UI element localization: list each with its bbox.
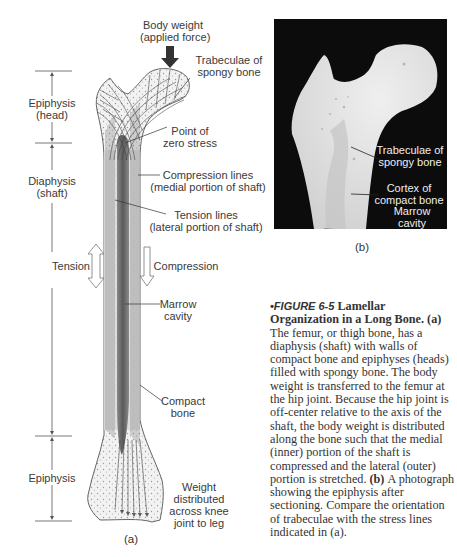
label-trabeculae-a: Trabeculae of spongy bone [192,54,266,78]
label-point-zero-stress: Point of zero stress [160,125,220,149]
label-compact-bone: Compact bone [160,395,206,419]
label-tension: Tension [52,260,90,272]
part-b-marker: (b) [370,472,388,486]
sublabel-a: (a) [124,533,138,545]
label-diaphysis: Diaphysis (shaft) [24,175,80,199]
figure-caption: •FIGURE 6-5 Lamellar Organization in a L… [270,300,457,539]
photo-label-cortex: Cortex of compact bone [372,182,446,206]
label-epiphysis-head: Epiphysis (head) [26,97,78,121]
figure-number: •FIGURE 6-5 [270,300,337,312]
femur-photo: Trabeculae of spongy bone Cortex of comp… [274,19,447,229]
part-a-text: The femur, or thigh bone, has a diaphysi… [270,326,449,486]
photo-label-marrow: Marrow cavity [384,205,440,229]
label-compression: Compression [152,260,220,272]
marrow-cavity [117,135,129,455]
tension-arrow-icon [88,244,104,288]
label-marrow-cavity-a: Marrow cavity [158,298,198,322]
photo-label-trabeculae: Trabeculae of spongy bone [374,144,446,168]
label-epiphysis: Epiphysis [24,472,80,484]
label-compression-lines: Compression lines (medial portion of sha… [146,169,270,193]
label-body-weight: Body weight (applied force) [140,19,206,43]
body-weight-arrow [161,46,179,68]
label-weight-distributed: Weight distributed across knee joint to … [167,481,231,529]
part-a-marker: (a) [427,312,441,326]
label-tension-lines: Tension lines (lateral portion of shaft) [144,209,268,233]
sublabel-b: (b) [355,241,369,253]
